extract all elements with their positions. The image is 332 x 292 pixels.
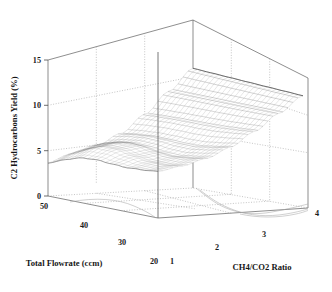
x-axis: 50 40 30 20 Total Flowrate (ccm) [26, 202, 158, 268]
wall-right-top-edge [193, 20, 308, 78]
z-tick-label-15: 15 [33, 56, 41, 65]
x-axis-label: Total Flowrate (ccm) [26, 258, 103, 268]
y-axis: 1 2 3 4 CH4/CO2 Ratio [170, 209, 319, 272]
wall-left-top-edge [48, 20, 193, 60]
z-axis-label: C2 Hydrocarbons Yield (%) [9, 76, 19, 179]
floor-contours [70, 188, 308, 218]
y-tick-label-1: 1 [170, 257, 174, 266]
x-tick-label-20: 20 [150, 257, 158, 266]
floor-grid-x-2 [121, 201, 269, 211]
floor-plane [48, 188, 308, 218]
x-tick-label-50: 50 [40, 202, 48, 211]
y-tick-label-4: 4 [315, 209, 319, 218]
floor-grid-y-1 [96, 193, 194, 208]
surface-plot-figure: 0 5 10 15 C2 Hydrocarbons Yield (%) 50 4… [0, 0, 332, 292]
floor-back-edges [48, 188, 308, 208]
plot-canvas: 0 5 10 15 C2 Hydrocarbons Yield (%) 50 4… [0, 0, 332, 292]
x-tick-label-40: 40 [80, 221, 88, 230]
z-tick-label-10: 10 [33, 101, 41, 110]
x-tick-label-30: 30 [118, 238, 126, 247]
contour-line-2 [196, 188, 308, 214]
y-tick-label-3: 3 [262, 230, 266, 239]
y-tick-label-2: 2 [215, 243, 219, 252]
z-tick-label-5: 5 [37, 147, 41, 156]
y-axis-label: CH4/CO2 Ratio [233, 262, 292, 272]
z-tick-label-0: 0 [37, 192, 41, 201]
z-axis: 0 5 10 15 C2 Hydrocarbons Yield (%) [9, 56, 48, 201]
surface-mesh [48, 68, 303, 171]
